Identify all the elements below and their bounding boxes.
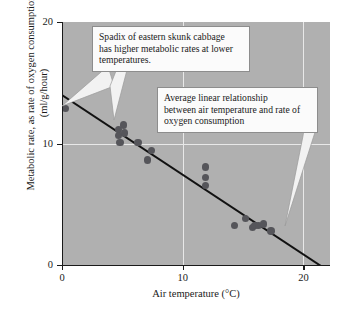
y-axis <box>62 22 63 265</box>
callout-regression-line-3: oxygen consumption <box>164 115 311 127</box>
data-point <box>242 215 249 222</box>
y-tick-label-0: 0 <box>33 259 53 270</box>
x-tick-label-0: 0 <box>50 272 74 283</box>
y-axis-title: Metabolic rate, as rate of oxygen consum… <box>24 0 50 193</box>
callout-spadix-line-3: temperatures. <box>99 54 243 66</box>
callout-regression: Average linear relationship between air … <box>157 87 318 133</box>
data-point <box>116 139 123 146</box>
callout-regression-line-1: Average linear relationship <box>164 92 311 104</box>
x-axis-title: Air temperature (°C) <box>62 288 330 299</box>
data-point <box>148 147 155 154</box>
x-tick-label-10: 10 <box>171 272 195 283</box>
y-tick-10 <box>57 144 62 145</box>
x-tick-0 <box>62 265 63 270</box>
data-point <box>121 129 128 136</box>
data-point <box>231 222 238 229</box>
x-tick-20 <box>303 265 304 270</box>
data-point <box>202 163 209 170</box>
data-point <box>202 182 209 189</box>
data-point <box>144 156 151 163</box>
callout-regression-line-2: between air temperature and rate of <box>164 104 311 116</box>
data-point <box>134 139 141 146</box>
data-point <box>202 174 209 181</box>
x-axis <box>62 265 330 266</box>
x-tick-label-20: 20 <box>291 272 315 283</box>
callout-regression-leader <box>265 126 325 231</box>
callout-spadix-line-1: Spadix of eastern skunk cabbage <box>99 31 243 43</box>
metabolic-rate-scatter-figure: 20 10 0 0 10 20 Metabolic rate, as rate … <box>0 0 348 311</box>
x-tick-10 <box>183 265 184 270</box>
callout-spadix-line-2: has higher metabolic rates at lower <box>99 43 243 55</box>
y-tick-20 <box>57 22 62 23</box>
callout-spadix: Spadix of eastern skunk cabbage has high… <box>92 26 250 72</box>
